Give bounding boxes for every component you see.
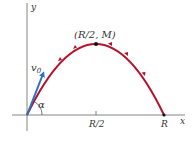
peak-label: (R/2, M) xyxy=(74,29,116,40)
y-axis-label: y xyxy=(30,2,37,12)
trajectory-curve xyxy=(27,44,164,115)
peak-point xyxy=(94,42,98,46)
angle-label: α xyxy=(38,99,45,110)
velocity-subscript: 0 xyxy=(37,67,42,75)
half-range-label: R/2 xyxy=(88,119,105,129)
range-point xyxy=(162,113,165,116)
velocity-label: v0 xyxy=(31,62,42,75)
range-label: R xyxy=(160,119,168,129)
x-axis-label: x xyxy=(180,116,185,126)
projectile-diagram: y x (R/2, M) R/2 R α v0 xyxy=(0,0,195,141)
trajectory-direction-markers xyxy=(58,42,146,76)
